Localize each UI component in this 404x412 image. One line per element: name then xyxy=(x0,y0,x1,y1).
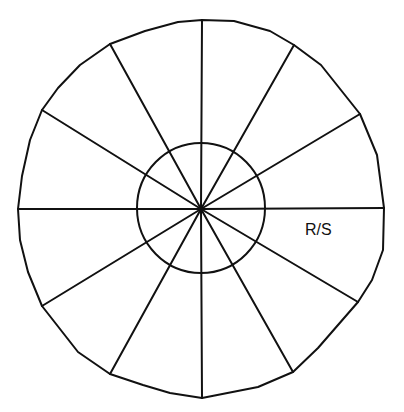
segmented-wheel-diagram xyxy=(0,0,404,412)
spoke-line xyxy=(201,208,384,209)
center-hub xyxy=(199,207,204,212)
spoke-line xyxy=(201,209,293,372)
spoke-line xyxy=(201,209,358,302)
spoke-line xyxy=(201,114,360,209)
spoke-line xyxy=(42,209,201,306)
spoke-line xyxy=(201,45,294,209)
spoke-line xyxy=(110,44,201,209)
spoke-line xyxy=(201,20,202,209)
spoke-line xyxy=(42,110,201,209)
spoke-line xyxy=(110,209,201,374)
segment-label-rs: R/S xyxy=(305,222,332,238)
spoke-line xyxy=(201,209,202,398)
